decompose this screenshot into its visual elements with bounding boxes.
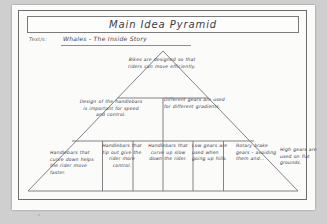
pyramid-cell-base-4: Low gears are used when going up hills. xyxy=(192,143,234,163)
topic-underline xyxy=(61,45,191,46)
pyramid-cell-middle-left: Design of the handlebars is important fo… xyxy=(78,99,144,119)
worksheet-page: Main Idea Pyramid Text/s: Whales - The I… xyxy=(12,5,315,210)
page-speckle xyxy=(38,214,40,216)
title-box: Main Idea Pyramid xyxy=(27,16,299,33)
topic-label: Text/s: xyxy=(29,36,47,42)
pyramid-cell-base-1: Handlebars that curve down helps the rid… xyxy=(50,150,94,176)
pyramid-cell-middle-right: Different gears are used for different g… xyxy=(164,97,230,110)
pyramid-cell-base-3: Handlebars that curve up slow down the r… xyxy=(146,143,190,163)
pyramid-cell-base-2: Handlebars that tip out give the rider m… xyxy=(100,143,144,169)
page-title: Main Idea Pyramid xyxy=(28,17,298,32)
topic-row: Text/s: Whales - The Inside Story xyxy=(29,35,301,46)
pyramid-cell-base-6: High gears are used on flat grounds. xyxy=(280,147,318,167)
main-idea-pyramid: Bikes are designed so that riders can mo… xyxy=(24,47,302,195)
pyramid-cell-apex: Bikes are designed so that riders can mo… xyxy=(125,57,199,70)
pyramid-cell-base-5: Rotary brake gears - avoiding them and..… xyxy=(236,143,278,163)
topic-value: Whales - The Inside Story xyxy=(63,35,147,42)
